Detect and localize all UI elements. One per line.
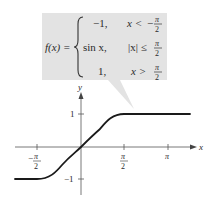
function-definition-callout: f(x) = −1, x < − π 2 sin x, |x| ≤ π 2 1,… — [42, 13, 167, 109]
case-2-expr: sin x, — [83, 41, 107, 53]
x-tick-label-pi: π — [165, 152, 170, 161]
y-tick-label-1: 1 — [70, 109, 75, 119]
svg-text:π: π — [34, 152, 39, 161]
case-1-cond: x < — [126, 17, 142, 29]
function-curve — [15, 114, 190, 179]
case-2-cond: |x| ≤ — [128, 41, 147, 53]
case-1-cond-den: 2 — [155, 25, 159, 34]
svg-text:−: − — [28, 153, 33, 163]
x-tick-label-neg-pi-over-2: − π 2 — [28, 152, 41, 171]
x-axis-label: x — [198, 142, 203, 152]
case-3-expr: 1, — [98, 65, 107, 77]
case-3-cond-den: 2 — [155, 73, 159, 82]
y-tick-label-neg-1: −1 — [64, 174, 74, 184]
y-axis-label: y — [77, 82, 82, 92]
function-lhs: f(x) = — [45, 41, 70, 54]
case-2-cond-den: 2 — [155, 49, 159, 58]
y-axis-arrow-icon — [79, 92, 84, 99]
x-tick-label-pi-over-2: π 2 — [120, 152, 128, 171]
case-3-cond: x > — [130, 65, 146, 77]
svg-text:2: 2 — [121, 162, 125, 171]
piecewise-function-chart: f(x) = −1, x < − π 2 sin x, |x| ≤ π 2 1,… — [0, 0, 216, 204]
x-axis-arrow-icon — [190, 145, 197, 150]
svg-text:π: π — [165, 152, 170, 161]
svg-text:2: 2 — [34, 162, 38, 171]
callout-pointer — [108, 80, 134, 109]
svg-text:π: π — [121, 152, 126, 161]
case-1-cond-sign: − — [147, 17, 153, 29]
case-1-expr: −1, — [93, 17, 108, 29]
